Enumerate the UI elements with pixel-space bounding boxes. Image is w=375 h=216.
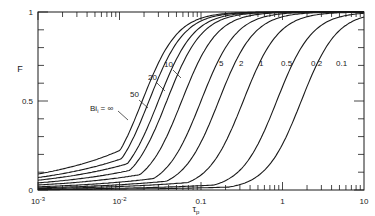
y-axis-label: F: [17, 64, 23, 74]
curve-bi-10: [38, 12, 364, 183]
x-tick-label: 0.1: [195, 197, 207, 206]
y-tick-label: 0.5: [22, 97, 34, 106]
x-tick-label: 10: [360, 197, 369, 206]
curve-labels: 102050Bii = ∞5210.50.20.1: [90, 59, 348, 120]
curve-bi-Biinfinfinfinf: [38, 12, 364, 174]
curve-bi-0.1: [38, 17, 364, 190]
curve-bi-2: [38, 12, 364, 187]
curve-label-1: 1: [259, 59, 264, 68]
curve-label-20: 20: [148, 73, 157, 82]
axis-labels: 10-310-20.111000.51Fτp: [17, 8, 369, 215]
curve-label-2: 2: [239, 59, 244, 68]
x-tick-label: 10-2: [112, 196, 127, 206]
curve-label-10: 10: [164, 60, 173, 69]
curve-label-0.5: 0.5: [281, 59, 293, 68]
chart: 10-310-20.111000.51Fτp 102050Bii = ∞5210…: [0, 0, 375, 216]
curve-label-0.1: 0.1: [336, 59, 348, 68]
y-tick-label: 1: [29, 8, 34, 17]
curve-label-5: 5: [219, 59, 224, 68]
x-tick-label: 10-3: [31, 196, 46, 206]
curve-label-50: 50: [130, 90, 139, 99]
curve-label-bi-inf: Bii = ∞: [90, 104, 113, 114]
curve-bi-5: [38, 12, 364, 185]
curve-group: [38, 12, 364, 190]
curve-label-0.2: 0.2: [311, 59, 323, 68]
y-tick-label: 0: [29, 186, 34, 195]
curve-bi-50: [38, 12, 364, 178]
x-tick-label: 1: [280, 197, 285, 206]
curve-bi-20: [38, 12, 364, 180]
